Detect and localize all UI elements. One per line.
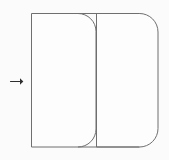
right-arrow-icon <box>11 78 24 84</box>
shapes-svg <box>0 0 169 160</box>
right-panel-shape[interactable] <box>97 14 159 148</box>
diagram-canvas: Two overlapping rounded rectangles with … <box>0 0 169 160</box>
left-panel-shape[interactable] <box>32 14 97 148</box>
